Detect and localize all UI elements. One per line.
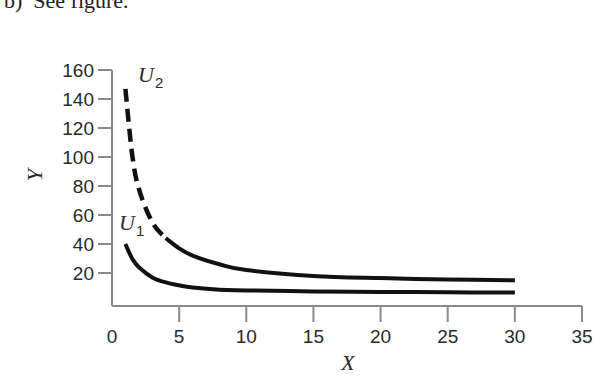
indifference-curve-chart: 2040608010012014016005101520253035 XYU2U… [0,0,612,378]
x-tick-label: 0 [107,326,118,347]
x-tick-label: 35 [571,326,592,347]
x-axis-title: X [340,350,356,375]
x-tick-label: 5 [174,326,185,347]
axes: 2040608010012014016005101520253035 [62,60,592,347]
y-tick-label: 160 [62,60,94,81]
u1-label: U1 [119,210,144,239]
x-tick-label: 30 [504,326,525,347]
y-tick-label: 120 [62,118,94,139]
x-tick-label: 15 [303,326,324,347]
y-tick-label: 20 [73,263,94,284]
curves [125,89,515,293]
u2-curve-solid [166,238,515,280]
y-tick-label: 60 [73,205,94,226]
y-tick-label: 140 [62,89,94,110]
y-tick-label: 100 [62,147,94,168]
y-tick-label: 40 [73,234,94,255]
x-tick-label: 25 [437,326,458,347]
y-axis-title: Y [22,166,47,181]
u2-label: U2 [138,62,163,91]
x-tick-label: 20 [370,326,391,347]
y-tick-label: 80 [73,176,94,197]
x-tick-label: 10 [236,326,257,347]
